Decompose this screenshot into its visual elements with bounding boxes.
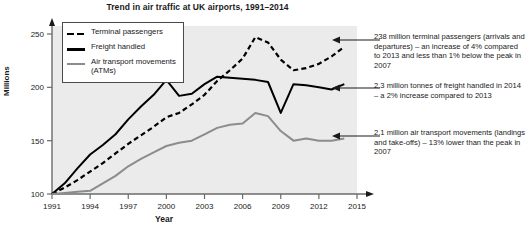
annotation-freight-handled: 2.3 million tonnes of freight handled in…: [374, 81, 526, 100]
legend-item-freight-handled: Freight handled: [67, 42, 179, 55]
x-tick-label: 2009: [272, 202, 290, 211]
legend-label: Freight handled: [91, 42, 145, 51]
solid-line-swatch-icon: [67, 45, 87, 55]
y-tick-label: 150: [31, 137, 45, 146]
x-axis-arrow-icon: [366, 191, 374, 197]
y-tick-label: 100: [31, 190, 45, 199]
dashed-line-swatch-icon: [67, 30, 87, 40]
legend-item-terminal-passengers: Terminal passengers: [67, 27, 179, 40]
x-tick-label: 2012: [310, 202, 328, 211]
chart-canvas: 1001502002501991199419972000200320062009…: [0, 0, 380, 230]
y-axis-arrow-icon: [49, 18, 55, 26]
x-tick-label: 2015: [348, 202, 366, 211]
annotation-air-transport-movements: 2.1 million air transport movements (lan…: [374, 128, 526, 157]
y-tick-label: 200: [31, 83, 45, 92]
annotation-terminal-passengers: 238 million terminal passengers (arrival…: [374, 32, 526, 70]
x-tick-label: 2003: [196, 202, 214, 211]
legend-label: Air transport movements (ATMs): [91, 57, 179, 76]
x-tick-label: 2000: [157, 202, 175, 211]
x-tick-label: 1994: [81, 202, 99, 211]
x-tick-label: 1997: [119, 202, 137, 211]
chart-figure: Trend in air traffic at UK airports, 199…: [0, 0, 531, 230]
y-tick-label: 250: [31, 30, 45, 39]
chart-legend: Terminal passengers Freight handled Air …: [62, 22, 184, 83]
x-tick-label: 1991: [43, 202, 61, 211]
plot-area: 1001502002501991199419972000200320062009…: [0, 0, 380, 230]
legend-item-air-transport-movements: Air transport movements (ATMs): [67, 57, 179, 76]
gray-line-swatch-icon: [67, 60, 87, 70]
x-tick-label: 2006: [234, 202, 252, 211]
legend-label: Terminal passengers: [91, 27, 163, 36]
